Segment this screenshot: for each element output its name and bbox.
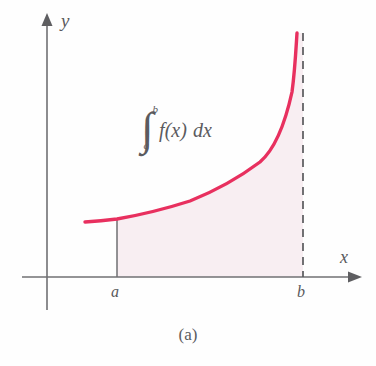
x-tick-label-b: b — [297, 283, 305, 301]
integral-lower-limit: a — [144, 139, 159, 151]
figure-caption: (a) — [0, 325, 376, 345]
integrand-expression: f(x)dx — [159, 119, 212, 142]
integrand-function: f(x) — [159, 119, 187, 141]
x-axis-label: x — [340, 247, 348, 268]
x-axis-arrowhead — [348, 272, 362, 283]
differential-dx: dx — [193, 119, 212, 141]
figure-container: y x a b ∫ b a f(x)dx (a) — [0, 0, 376, 366]
integral-limits: b a — [150, 103, 159, 151]
y-axis-arrowhead — [42, 13, 53, 26]
shaded-area-under-curve — [117, 33, 303, 277]
y-axis-label: y — [61, 10, 69, 32]
x-tick-label-a: a — [111, 283, 119, 301]
integral-annotation: ∫ b a f(x)dx — [141, 103, 212, 151]
integral-upper-limit: b — [153, 103, 159, 115]
integral-figure-plot — [0, 0, 376, 366]
